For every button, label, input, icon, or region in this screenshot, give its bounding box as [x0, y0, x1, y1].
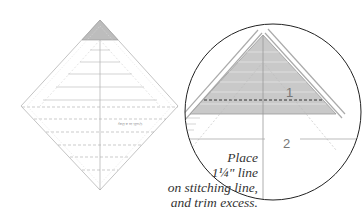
label-1: 1	[286, 85, 293, 100]
caption-line-3: on stitching line,	[138, 180, 258, 195]
ruler-logo-text: Quilt in a Day	[118, 122, 142, 126]
label-2: 2	[283, 136, 290, 151]
instruction-caption: Place 1¼" line on stitching line, and tr…	[138, 150, 258, 210]
caption-line-1: Place	[138, 150, 258, 165]
caption-line-2: 1¼" line	[138, 165, 258, 180]
caption-line-4: and trim excess.	[138, 195, 258, 210]
